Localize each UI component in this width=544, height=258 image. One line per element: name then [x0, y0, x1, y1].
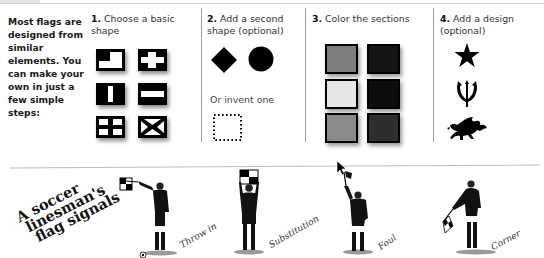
dragon-icon — [446, 114, 490, 144]
flag-shape-vertical-stripe — [96, 83, 125, 105]
invent-label: Or invent one — [210, 94, 274, 105]
color-section-4 — [367, 79, 400, 109]
step-2-label: Add a second shape (optional) — [207, 13, 284, 36]
cross-shape-icon — [138, 49, 167, 71]
signal-label-throw-in: Throw in — [178, 221, 218, 250]
flag-shape-horizontal-stripe — [138, 83, 167, 105]
step-3-title: 3. Color the sections — [312, 13, 422, 25]
section-divider — [10, 165, 540, 169]
separator-2 — [305, 8, 306, 142]
star-icon — [454, 42, 480, 68]
step-1-title: 1. Choose a basic shape — [91, 13, 181, 37]
step-3-number: 3. — [312, 13, 322, 24]
linesman-foul-figure — [340, 170, 380, 256]
color-section-5 — [325, 113, 358, 143]
step-3-label: Color the sections — [325, 13, 409, 24]
circle-icon — [248, 46, 274, 72]
signal-label-substitution: Substitution — [267, 213, 320, 250]
horizontal-stripe-icon — [138, 83, 167, 105]
separator-3 — [433, 8, 434, 142]
vertical-stripe-icon — [96, 83, 125, 105]
canton-shape-icon — [96, 49, 125, 71]
flag-shape-saltire — [138, 116, 167, 138]
step-1-number: 1. — [91, 13, 101, 24]
step-2-title: 2. Add a second shape (optional) — [207, 13, 297, 37]
linesman-throw-in-figure — [118, 176, 180, 258]
flag-shape-cross — [138, 49, 167, 71]
flag-shape-four-squares — [96, 116, 125, 138]
trident-icon — [452, 78, 482, 108]
linesman-corner-figure — [436, 178, 496, 256]
flag-shape-canton — [96, 49, 125, 71]
intro-text: Most flags are designed from similar ele… — [8, 15, 88, 119]
step-4-title: 4. Add a design (optional) — [440, 13, 540, 37]
four-squares-icon — [96, 116, 125, 138]
linesman-substitution-figure — [232, 168, 266, 256]
separator-1 — [201, 8, 202, 142]
saltire-icon — [138, 116, 167, 138]
step-4-number: 4. — [440, 13, 450, 24]
color-section-2 — [367, 44, 400, 74]
diamond-icon — [210, 46, 238, 74]
top-rule — [0, 3, 544, 4]
color-section-3 — [325, 79, 358, 109]
color-section-6 — [367, 113, 400, 143]
step-2-number: 2. — [207, 13, 217, 24]
color-section-1 — [325, 44, 358, 74]
step-4-label: Add a design (optional) — [440, 13, 514, 36]
linesman-heading: A soccer linesman's flag signals — [14, 166, 121, 246]
step-1-label: Choose a basic shape — [91, 13, 175, 36]
dotted-square-icon — [212, 113, 244, 143]
